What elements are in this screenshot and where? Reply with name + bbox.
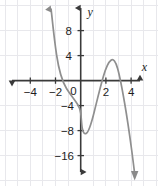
origin-label: 0 (70, 85, 76, 97)
ytick-label--8: −8 (61, 125, 74, 137)
xtick-label-2: 2 (103, 86, 109, 98)
curve-right-branch-arrow (131, 171, 138, 181)
ytick-label--16: −16 (54, 150, 74, 162)
ytick-label-4: 4 (66, 50, 73, 62)
xtick-label--2: −2 (49, 86, 62, 98)
coordinate-plane-chart: −4 −2 0 2 4 8 4 −4 −8 −16 y x (0, 0, 158, 186)
y-axis-label: y (87, 5, 94, 19)
xtick-label-4: 4 (128, 86, 135, 98)
axis-titles: y x (87, 5, 148, 75)
xtick-label--4: −4 (24, 86, 38, 98)
graph-figure: −4 −2 0 2 4 8 4 −4 −8 −16 y x (0, 0, 158, 186)
x-axis-label: x (141, 60, 148, 74)
ytick-label-8: 8 (66, 25, 72, 37)
ytick-label--4: −4 (61, 100, 75, 112)
